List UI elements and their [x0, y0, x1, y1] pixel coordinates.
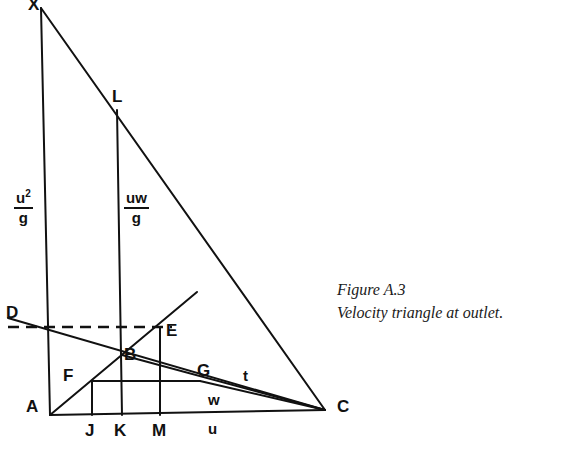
caption-line-2: Velocity triangle at outlet.	[337, 301, 503, 324]
vertex-label-x: X	[28, 0, 39, 13]
velocity-triangle-diagram	[0, 0, 584, 454]
vertex-label-g: G	[197, 362, 210, 379]
figure-canvas: XLDEBFGACJKM twu u2guwg Figure A.3 Veloc…	[0, 0, 584, 454]
vertex-label-e: E	[166, 322, 177, 339]
vertex-label-j: J	[85, 422, 94, 439]
fraction-1-denominator: g	[14, 209, 33, 226]
solid-lines-group	[8, 8, 325, 415]
fraction-1-numerator-base: u	[16, 189, 25, 206]
left-vertical-XA	[41, 8, 50, 415]
quantity-label-u: u	[208, 421, 217, 436]
fraction-2-denominator: g	[124, 209, 149, 226]
vertex-label-b: B	[124, 346, 136, 363]
vertical-LK	[117, 110, 122, 415]
vertex-label-d: D	[6, 304, 18, 321]
segment-B-to-C	[122, 355, 325, 410]
vertex-label-k: K	[114, 422, 126, 439]
fraction-2-numerator: uw	[124, 190, 149, 209]
fraction-1: u2g	[14, 190, 33, 226]
vertex-label-m: M	[152, 422, 166, 439]
hypotenuse-XC	[41, 8, 325, 410]
quantity-label-t: t	[243, 368, 248, 383]
fraction-2: uwg	[124, 190, 149, 226]
caption-line-1: Figure A.3	[337, 278, 503, 301]
fraction-2-numerator-base: uw	[126, 189, 147, 206]
fraction-1-exponent: 2	[25, 188, 31, 199]
vertex-label-c: C	[337, 398, 349, 415]
figure-caption: Figure A.3 Velocity triangle at outlet.	[337, 278, 503, 324]
vertex-label-l: L	[112, 88, 122, 105]
vertex-label-a: A	[26, 398, 38, 415]
vertex-label-f: F	[63, 367, 73, 384]
quantity-label-w: w	[208, 392, 220, 407]
fraction-1-numerator: u2	[14, 190, 33, 209]
